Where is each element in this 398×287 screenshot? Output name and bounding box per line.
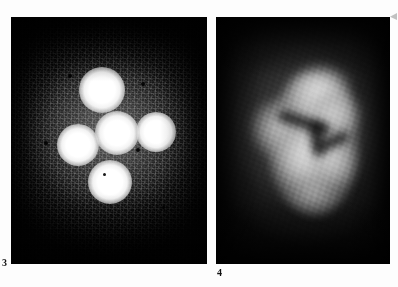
image-panel-3[interactable] (11, 17, 207, 264)
panel-3-vignette (11, 17, 207, 264)
panel-4-vignette (216, 17, 390, 264)
panel-label-4: 4 (217, 268, 222, 278)
corner-mark-icon (390, 13, 397, 20)
figure-plate: 3 4 (0, 0, 398, 287)
panel-label-3: 3 (2, 258, 7, 268)
image-panel-4[interactable] (216, 17, 390, 264)
